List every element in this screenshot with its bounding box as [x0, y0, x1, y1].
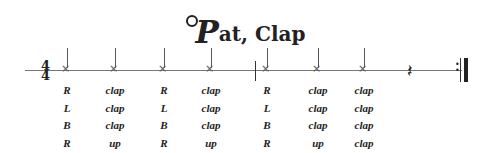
x-notehead-icon: × [61, 62, 70, 76]
barline [255, 61, 256, 81]
beat-label: B [47, 117, 87, 135]
quarter-rest-icon: 𝄽 [407, 60, 413, 82]
x-notehead-icon: × [312, 62, 321, 76]
beat-label: B [247, 117, 287, 135]
beat-column: RLBR [47, 82, 87, 152]
beat-label: R [47, 135, 87, 153]
beat-label: clap [191, 117, 231, 135]
beat-label: clap [298, 100, 338, 118]
time-signature-bottom: 4 [41, 70, 50, 81]
x-notehead-icon: × [358, 62, 367, 76]
staff-line [25, 70, 462, 71]
beat-label: R [247, 82, 287, 100]
x-notehead-note: × [358, 65, 368, 75]
note-stem [211, 48, 212, 68]
x-notehead-note: × [261, 65, 271, 75]
beat-label: clap [344, 135, 384, 153]
note-stem [267, 48, 268, 68]
beat-column: clapclapclapup [191, 82, 231, 152]
page-title: Pat, Clap [0, 12, 491, 48]
beat-label: R [47, 82, 87, 100]
note-stem [115, 48, 116, 68]
beat-label: clap [191, 82, 231, 100]
repeat-dots-icon: •• [455, 62, 460, 74]
x-notehead-icon: × [109, 62, 118, 76]
x-notehead-icon: × [205, 62, 214, 76]
beat-column: RLBR [144, 82, 184, 152]
beat-column: clapclapclapclap [344, 82, 384, 152]
x-notehead-note: × [312, 65, 322, 75]
beat-label: R [144, 135, 184, 153]
note-stem [318, 48, 319, 68]
beat-label: clap [95, 117, 135, 135]
note-stem [67, 48, 68, 68]
beat-label: up [191, 135, 231, 153]
beat-label: clap [95, 82, 135, 100]
beat-label: up [298, 135, 338, 153]
beat-label: R [144, 82, 184, 100]
x-notehead-icon: × [158, 62, 167, 76]
x-notehead-note: × [205, 65, 215, 75]
x-notehead-note: × [158, 65, 168, 75]
beat-label: clap [298, 117, 338, 135]
title-initial: P [196, 14, 219, 50]
beat-label: clap [298, 82, 338, 100]
x-notehead-note: × [109, 65, 119, 75]
x-notehead-icon: × [261, 62, 270, 76]
note-stem [164, 48, 165, 68]
beat-label: clap [95, 100, 135, 118]
final-barline-thin [460, 58, 461, 82]
beat-label: clap [344, 100, 384, 118]
beat-column: clapclapclapup [298, 82, 338, 152]
final-barline-thick [464, 58, 468, 82]
beat-label: R [247, 135, 287, 153]
beat-label: L [144, 100, 184, 118]
beat-label: L [247, 100, 287, 118]
note-stem [364, 48, 365, 68]
beat-label: up [95, 135, 135, 153]
beat-label: clap [344, 117, 384, 135]
x-notehead-note: × [61, 65, 71, 75]
beat-column: clapclapclapup [95, 82, 135, 152]
beat-label: L [47, 100, 87, 118]
beat-column: RLBR [247, 82, 287, 152]
beat-label: B [144, 117, 184, 135]
title-text: at, Clap [219, 22, 306, 46]
beat-label: clap [191, 100, 231, 118]
beat-label: clap [344, 82, 384, 100]
